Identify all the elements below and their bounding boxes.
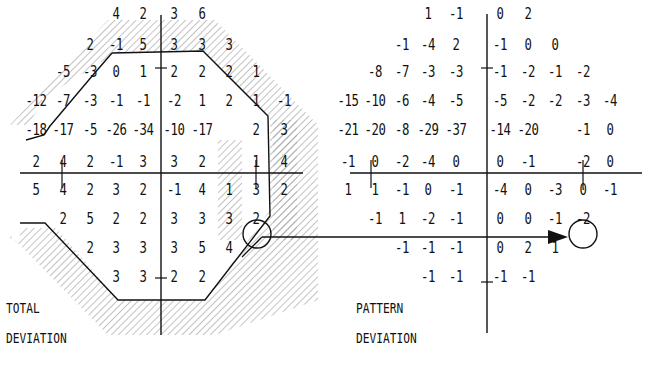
grid-cell: -2 bbox=[517, 92, 540, 110]
grid-cell: -5 bbox=[489, 92, 512, 110]
grid-cell: 2 bbox=[79, 181, 102, 199]
grid-cell: 2 bbox=[517, 5, 540, 23]
grid-cell: -4 bbox=[417, 153, 440, 171]
grid-cell: 2 bbox=[163, 268, 186, 286]
grid-cell: 0 bbox=[572, 181, 595, 199]
grid-cell: 0 bbox=[364, 153, 387, 171]
grid-cell: -1 bbox=[105, 153, 128, 171]
grid-cell: 1 bbox=[544, 239, 567, 257]
grid-cell: -3 bbox=[79, 63, 102, 81]
grid-cell: 2 bbox=[105, 210, 128, 228]
grid-cell: -1 bbox=[445, 210, 468, 228]
grid-cell: -3 bbox=[445, 63, 468, 81]
total-deviation-label-line2: DEVIATION bbox=[6, 330, 67, 346]
grid-cell: -17 bbox=[191, 121, 214, 139]
grid-cell: -21 bbox=[337, 121, 360, 139]
grid-cell: -20 bbox=[364, 121, 387, 139]
grid-cell: 4 bbox=[52, 181, 75, 199]
grid-cell: -1 bbox=[364, 210, 387, 228]
grid-cell: 1 bbox=[364, 181, 387, 199]
grid-cell: -1 bbox=[105, 36, 128, 54]
grid-cell: 2 bbox=[25, 153, 48, 171]
grid-cell: 0 bbox=[417, 181, 440, 199]
grid-cell: 0 bbox=[599, 153, 622, 171]
grid-cell: 2 bbox=[79, 36, 102, 54]
grid-cell: 0 bbox=[489, 153, 512, 171]
grid-cell: 4 bbox=[218, 239, 241, 257]
grid-cell: 5 bbox=[191, 239, 214, 257]
grid-cell: 2 bbox=[517, 239, 540, 257]
grid-cell: 3 bbox=[132, 268, 155, 286]
grid-cell: 3 bbox=[105, 239, 128, 257]
grid-cell: 3 bbox=[273, 121, 296, 139]
grid-cell: 0 bbox=[105, 63, 128, 81]
grid-cell: 2 bbox=[191, 268, 214, 286]
grid-cell: 1 bbox=[218, 181, 241, 199]
grid-cell: 4 bbox=[52, 153, 75, 171]
grid-cell: 0 bbox=[489, 5, 512, 23]
grid-cell: 1 bbox=[391, 210, 414, 228]
grid-cell: 1 bbox=[337, 181, 360, 199]
grid-cell: 1 bbox=[132, 63, 155, 81]
grid-cell: -4 bbox=[417, 36, 440, 54]
grid-cell: -1 bbox=[163, 181, 186, 199]
grid-cell: -1 bbox=[572, 121, 595, 139]
grid-cell: -7 bbox=[391, 63, 414, 81]
grid-cell: 2 bbox=[132, 181, 155, 199]
grid-cell: -3 bbox=[79, 92, 102, 110]
grid-cell: -1 bbox=[517, 268, 540, 286]
grid-cell: 5 bbox=[79, 210, 102, 228]
grid-cell: 3 bbox=[163, 5, 186, 23]
grid-cell: -1 bbox=[273, 92, 296, 110]
grid-cell: -1 bbox=[417, 239, 440, 257]
grid-cell: 0 bbox=[517, 36, 540, 54]
grid-cell: 2 bbox=[445, 36, 468, 54]
grid-cell: -1 bbox=[132, 92, 155, 110]
grid-cell: -20 bbox=[517, 121, 540, 139]
grid-cell: -2 bbox=[572, 210, 595, 228]
grid-cell: -4 bbox=[599, 92, 622, 110]
grid-cell: -2 bbox=[417, 210, 440, 228]
grid-cell: 5 bbox=[132, 36, 155, 54]
grid-cell: -17 bbox=[52, 121, 75, 139]
grid-cell: -1 bbox=[489, 63, 512, 81]
grid-cell: -37 bbox=[445, 121, 468, 139]
grid-cell: 2 bbox=[79, 153, 102, 171]
grid-cell: 0 bbox=[517, 181, 540, 199]
grid-cell: -8 bbox=[364, 63, 387, 81]
grid-cell: 3 bbox=[191, 36, 214, 54]
grid-cell: -5 bbox=[52, 63, 75, 81]
grid-cell: 0 bbox=[489, 239, 512, 257]
grid-cell: 4 bbox=[191, 181, 214, 199]
grid-cell: -15 bbox=[337, 92, 360, 110]
grid-cell: -1 bbox=[489, 268, 512, 286]
grid-cell: -29 bbox=[417, 121, 440, 139]
grid-cell: 3 bbox=[163, 210, 186, 228]
grid-cell: -8 bbox=[391, 121, 414, 139]
grid-cell: -3 bbox=[572, 92, 595, 110]
grid-cell: 2 bbox=[273, 181, 296, 199]
grid-cell: -12 bbox=[25, 92, 48, 110]
grid-cell: 3 bbox=[163, 153, 186, 171]
grid-cell: -34 bbox=[132, 121, 155, 139]
grid-cell: -2 bbox=[572, 153, 595, 171]
grid-cell: -1 bbox=[391, 239, 414, 257]
grid-cell: -1 bbox=[417, 268, 440, 286]
grid-cell: 2 bbox=[132, 210, 155, 228]
grid-cell: 2 bbox=[132, 5, 155, 23]
grid-cell: 2 bbox=[52, 210, 75, 228]
grid-cell: -18 bbox=[25, 121, 48, 139]
grid-cell: -26 bbox=[105, 121, 128, 139]
total-deviation-label-line1: TOTAL bbox=[6, 300, 40, 316]
grid-cell: 1 bbox=[245, 63, 268, 81]
grid-cell: 3 bbox=[218, 210, 241, 228]
grid-cell: -5 bbox=[79, 121, 102, 139]
grid-cell: 0 bbox=[544, 36, 567, 54]
grid-cell: -4 bbox=[489, 181, 512, 199]
grid-cell: 3 bbox=[245, 181, 268, 199]
pattern-deviation-label-line1: PATTERN bbox=[356, 300, 403, 316]
grid-cell: 2 bbox=[191, 63, 214, 81]
grid-cell: 5 bbox=[25, 181, 48, 199]
grid-cell: -10 bbox=[364, 92, 387, 110]
grid-cell: -3 bbox=[544, 181, 567, 199]
